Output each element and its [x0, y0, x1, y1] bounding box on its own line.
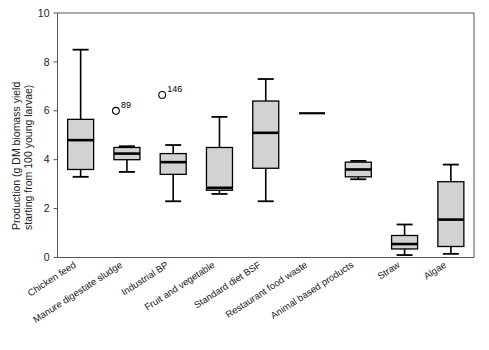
y-axis-ticks: 0246810 [38, 7, 58, 264]
y-tick-label: 10 [38, 7, 50, 19]
box-body [438, 182, 464, 247]
box-body [392, 235, 418, 248]
x-axis-category-labels: Chicken feedManure digestate sludgeIndus… [25, 259, 448, 325]
x-axis-label-algae: Algae [422, 259, 448, 281]
box-series: 89146 [68, 50, 464, 255]
outlier-point [159, 92, 166, 99]
boxplot-canvas: 0246810 89146 Chicken feedManure digesta… [0, 0, 489, 350]
y-tick-label: 4 [44, 153, 50, 165]
x-axis-label-straw: Straw [375, 259, 401, 282]
box-group [392, 224, 418, 255]
x-axis-label-manure-digestate-sludge: Manure digestate sludge [31, 259, 124, 325]
outlier-point [113, 107, 120, 114]
y-axis-title-line1: Production (g DM biomass yield [10, 82, 22, 230]
box-group [253, 79, 279, 201]
y-tick-label: 6 [44, 104, 50, 116]
x-axis-label-animal-based-products: Animal based products [268, 259, 355, 321]
y-axis-title: Production (g DM biomass yield starting … [10, 82, 34, 230]
y-tick-label: 8 [44, 56, 50, 68]
box-group [206, 117, 232, 194]
boxplot-chart: 0246810 89146 Chicken feedManure digesta… [0, 0, 489, 350]
box-body [68, 119, 94, 169]
box-group [345, 161, 371, 179]
box-group [438, 165, 464, 254]
box-group [68, 50, 94, 177]
box-body [253, 101, 279, 168]
box-body [206, 147, 232, 190]
outlier-value-label: 146 [167, 84, 182, 94]
y-tick-label: 2 [44, 202, 50, 214]
y-tick-label: 0 [44, 251, 50, 263]
x-axis-label-restaurant-food-waste: Restaurant food waste [223, 259, 309, 320]
outlier-value-label: 89 [121, 100, 131, 110]
box-group: 89 [113, 100, 140, 172]
box-body [160, 154, 186, 175]
y-axis-title-line2: starting from 100 young larvae) [22, 85, 34, 230]
box-group: 146 [159, 84, 186, 201]
